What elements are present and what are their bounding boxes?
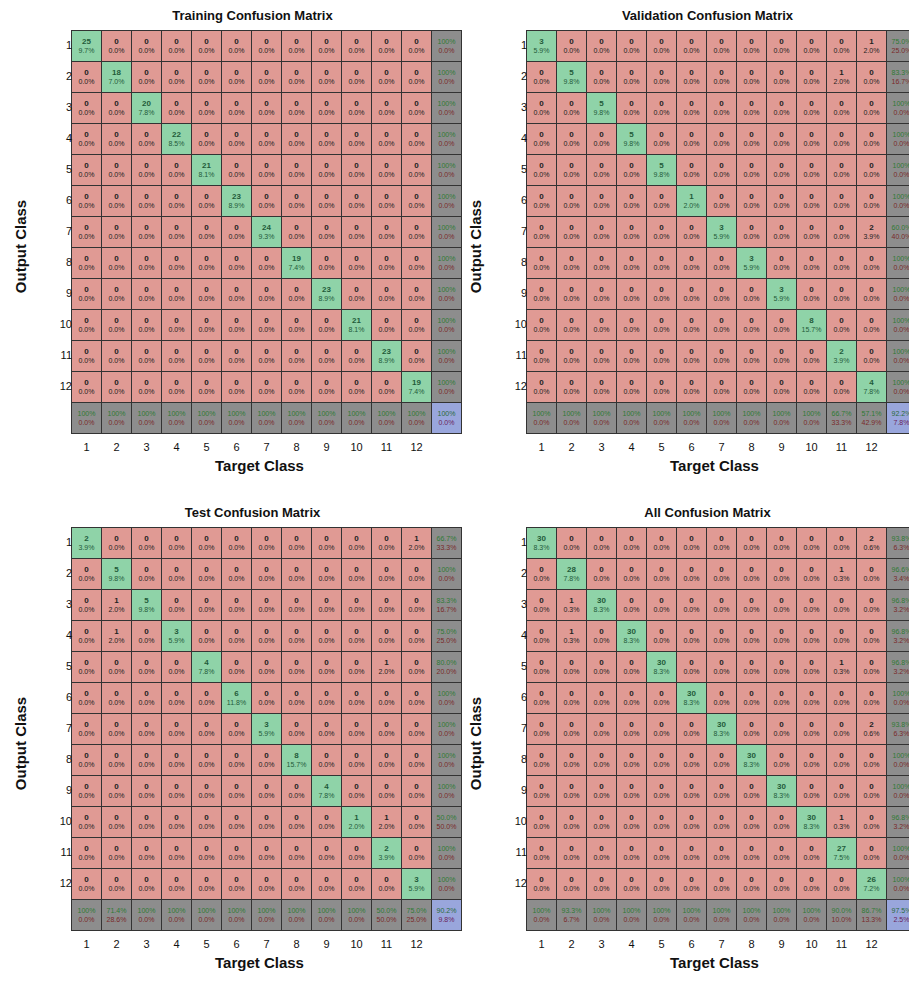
cell-percent: 0.0% bbox=[79, 263, 95, 272]
cell-percent: 0.0% bbox=[199, 294, 215, 303]
cell-percent: 0.0% bbox=[804, 77, 820, 86]
cell-percent: 0.0% bbox=[349, 46, 365, 55]
cell-percent: 0.0% bbox=[624, 170, 640, 179]
cell-count: 0 bbox=[779, 627, 783, 636]
cell-count: 0 bbox=[84, 875, 88, 884]
cell-count: 3 bbox=[264, 720, 268, 729]
cell-percent: 2.0% bbox=[349, 822, 365, 831]
cell-percent: 0.0% bbox=[229, 636, 245, 645]
cell-percent: 8.3% bbox=[684, 698, 700, 707]
incorrect-cell: 00.0% bbox=[372, 559, 401, 589]
cell-count: 0 bbox=[629, 37, 633, 46]
incorrect-cell: 00.0% bbox=[102, 745, 131, 775]
incorrect-cell: 00.0% bbox=[677, 62, 706, 92]
cell-count: 0 bbox=[839, 223, 843, 232]
cell-count: 0 bbox=[809, 596, 813, 605]
cell-count: 0 bbox=[779, 596, 783, 605]
cell-count: 0 bbox=[749, 813, 753, 822]
cell-percent: 0.0% bbox=[534, 325, 550, 334]
incorrect-cell: 00.0% bbox=[857, 776, 886, 806]
column-summary-cell: 100%0.0% bbox=[222, 403, 251, 433]
error-value: 0.0% bbox=[774, 418, 790, 427]
cell-percent: 0.0% bbox=[109, 46, 125, 55]
incorrect-cell: 00.0% bbox=[162, 714, 191, 744]
cell-percent: 0.0% bbox=[409, 636, 425, 645]
incorrect-cell: 00.0% bbox=[162, 776, 191, 806]
incorrect-cell: 00.0% bbox=[647, 590, 676, 620]
cell-count: 0 bbox=[384, 565, 388, 574]
validation-confusion-matrix: Validation Confusion Matrix35.9%00.0%00.… bbox=[455, 8, 895, 488]
cell-percent: 0.0% bbox=[594, 822, 610, 831]
recall-value: 100% bbox=[803, 409, 821, 418]
incorrect-cell: 00.0% bbox=[402, 776, 431, 806]
precision-value: 100% bbox=[438, 254, 456, 263]
cell-percent: 0.0% bbox=[229, 791, 245, 800]
cell-percent: 0.0% bbox=[534, 574, 550, 583]
cell-count: 0 bbox=[84, 782, 88, 791]
cell-count: 0 bbox=[84, 161, 88, 170]
incorrect-cell: 00.0% bbox=[372, 93, 401, 123]
row-summary-cell: 100%0.0% bbox=[887, 124, 909, 154]
cell-percent: 0.0% bbox=[774, 698, 790, 707]
cell-percent: 0.0% bbox=[379, 574, 395, 583]
precision-value: 100% bbox=[893, 161, 909, 170]
incorrect-cell: 00.0% bbox=[402, 186, 431, 216]
incorrect-cell: 10.3% bbox=[827, 559, 856, 589]
incorrect-cell: 00.0% bbox=[827, 248, 856, 278]
cell-count: 0 bbox=[414, 192, 418, 201]
cell-percent: 0.0% bbox=[804, 667, 820, 676]
incorrect-cell: 00.0% bbox=[587, 248, 616, 278]
column-summary-cell: 57.1%42.9% bbox=[857, 403, 886, 433]
incorrect-cell: 00.0% bbox=[677, 807, 706, 837]
recall-value: 100% bbox=[318, 906, 336, 915]
precision-value: 100% bbox=[893, 316, 909, 325]
cell-count: 0 bbox=[539, 347, 543, 356]
error-value: 0.0% bbox=[199, 418, 215, 427]
cell-count: 21 bbox=[352, 316, 361, 325]
incorrect-cell: 00.0% bbox=[342, 248, 371, 278]
error-value: 0.0% bbox=[744, 915, 760, 924]
column-summary-cell: 100%0.0% bbox=[192, 403, 221, 433]
overall-error: 2.5% bbox=[894, 915, 909, 924]
precision-value: 100% bbox=[438, 37, 456, 46]
y-tick-label: 10 bbox=[513, 318, 527, 330]
column-summary-cell: 100%0.0% bbox=[557, 403, 586, 433]
cell-percent: 0.0% bbox=[199, 356, 215, 365]
cell-percent: 0.0% bbox=[534, 263, 550, 272]
cell-count: 0 bbox=[234, 596, 238, 605]
cell-percent: 0.0% bbox=[139, 543, 155, 552]
cell-count: 0 bbox=[689, 254, 693, 263]
error-value: 0.0% bbox=[804, 915, 820, 924]
cell-percent: 8.1% bbox=[349, 325, 365, 334]
cell-percent: 0.0% bbox=[109, 108, 125, 117]
incorrect-cell: 00.0% bbox=[827, 528, 856, 558]
cell-percent: 7.8% bbox=[319, 791, 335, 800]
incorrect-cell: 00.0% bbox=[707, 93, 736, 123]
incorrect-cell: 00.0% bbox=[587, 341, 616, 371]
cell-count: 0 bbox=[84, 658, 88, 667]
cell-percent: 2.0% bbox=[379, 822, 395, 831]
x-tick-label: 12 bbox=[857, 938, 886, 950]
incorrect-cell: 00.0% bbox=[222, 93, 251, 123]
cell-count: 18 bbox=[112, 68, 121, 77]
cell-count: 0 bbox=[719, 751, 723, 760]
incorrect-cell: 00.0% bbox=[192, 186, 221, 216]
cell-count: 0 bbox=[84, 596, 88, 605]
cell-count: 0 bbox=[569, 875, 573, 884]
incorrect-cell: 00.0% bbox=[617, 838, 646, 868]
cell-count: 0 bbox=[659, 813, 663, 822]
cell-percent: 0.0% bbox=[714, 139, 730, 148]
cell-count: 0 bbox=[144, 37, 148, 46]
cell-percent: 0.0% bbox=[319, 263, 335, 272]
precision-value: 100% bbox=[893, 130, 909, 139]
incorrect-cell: 00.0% bbox=[527, 869, 556, 899]
incorrect-cell: 00.0% bbox=[737, 31, 766, 61]
incorrect-cell: 00.0% bbox=[102, 341, 131, 371]
cell-count: 5 bbox=[569, 68, 573, 77]
incorrect-cell: 00.0% bbox=[192, 714, 221, 744]
correct-cell: 59.8% bbox=[557, 62, 586, 92]
cell-count: 30 bbox=[537, 534, 546, 543]
cell-percent: 0.0% bbox=[564, 46, 580, 55]
incorrect-cell: 00.0% bbox=[72, 248, 101, 278]
cell-percent: 0.0% bbox=[834, 760, 850, 769]
